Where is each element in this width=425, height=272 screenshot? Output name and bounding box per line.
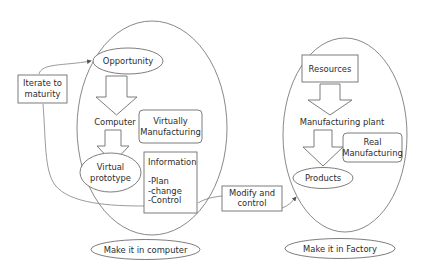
block-arrow-resources-to-plant xyxy=(308,84,352,115)
information-box[interactable]: Information -Plan -change -Control xyxy=(144,152,197,213)
opportunity-label: Opportunity xyxy=(103,56,153,66)
real-manufacturing-box[interactable]: Real Manufacturing xyxy=(342,133,403,162)
resources-box[interactable]: Resources xyxy=(302,55,358,82)
iterate-to-maturity-box[interactable]: Iterate to maturity xyxy=(18,75,67,103)
information-to-modify-connector xyxy=(198,196,222,203)
virtually-manufacturing-box[interactable]: Virtually Manufacturing xyxy=(139,110,202,143)
make-it-in-computer-label: Make it in computer xyxy=(91,240,200,260)
iterate-label-line2: maturity xyxy=(25,89,61,99)
resources-label: Resources xyxy=(309,64,352,74)
manufacturing-plant-label: Manufacturing plant xyxy=(300,117,385,127)
factory-region-label: Make it in Factory xyxy=(303,244,377,254)
information-title: Information xyxy=(148,157,196,167)
opportunity-node[interactable]: Opportunity xyxy=(93,48,163,74)
iterate-label-line1: Iterate to xyxy=(23,78,62,88)
modify-label-line2: control xyxy=(237,198,266,208)
modify-label-line1: Modify and xyxy=(229,188,275,198)
block-arrow-plant-to-products xyxy=(303,130,343,166)
products-label: Products xyxy=(305,173,341,183)
virtual-prototype-node[interactable]: Virtual prototype xyxy=(80,153,141,192)
computer-region-label: Make it in computer xyxy=(104,245,188,255)
virtual-prototype-line2: prototype xyxy=(90,173,131,183)
modify-to-factory-arrow xyxy=(282,197,296,208)
real-manufacturing-line1: Real xyxy=(363,137,381,147)
information-item-change: -change xyxy=(148,186,182,196)
diagram-canvas: Iterate to maturity Opportunity Computer… xyxy=(0,0,425,272)
computer-label: Computer xyxy=(94,117,136,127)
modify-and-control-box[interactable]: Modify and control xyxy=(222,186,282,211)
virtually-manufacturing-line2: Manufacturing xyxy=(140,127,201,137)
block-arrow-opportunity-to-computer xyxy=(96,76,137,115)
iterate-to-opportunity-arrow xyxy=(39,61,91,74)
products-node[interactable]: Products xyxy=(293,168,353,189)
real-manufacturing-line2: Manufacturing xyxy=(342,148,403,158)
virtual-prototype-line1: Virtual xyxy=(97,162,124,172)
virtually-manufacturing-line1: Virtually xyxy=(153,116,188,126)
information-item-plan: -Plan xyxy=(148,176,169,186)
information-item-control: -Control xyxy=(148,195,181,205)
make-it-in-factory-label: Make it in Factory xyxy=(285,239,395,259)
